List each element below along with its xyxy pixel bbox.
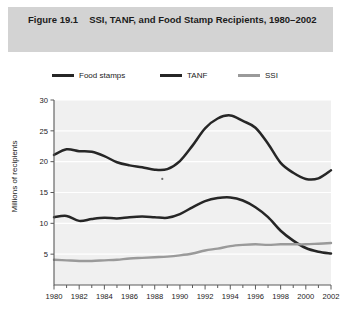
x-tick-label: 1994 (222, 292, 239, 301)
figure-number: Figure 19.1 (28, 13, 78, 27)
y-tick-label: 30 (40, 96, 48, 105)
y-tick-label: 15 (40, 188, 48, 197)
figure-container: Figure 19.1 SSI, TANF, and Food Stamp Re… (0, 0, 341, 323)
y-tick-label: 20 (40, 157, 48, 166)
x-tick-label: 1998 (272, 292, 289, 301)
legend-item-tanf: TANF (160, 68, 207, 82)
x-tick-label: 1982 (71, 292, 88, 301)
legend-item-ssi: SSI (238, 68, 278, 82)
stray-speck-mark (161, 178, 163, 180)
x-tick-label: 1984 (96, 292, 113, 301)
legend-label-food-stamps: Food stamps (79, 71, 125, 80)
figure-title-text: Figure 19.1 SSI, TANF, and Food Stamp Re… (28, 13, 325, 27)
legend-swatch-ssi (238, 74, 260, 77)
y-tick-label: 10 (40, 219, 48, 228)
x-tick-label: 1986 (121, 292, 138, 301)
x-tick-label: 1988 (146, 292, 163, 301)
chart-legend: Food stamps TANF SSI (52, 68, 282, 82)
legend-label-tanf: TANF (187, 71, 207, 80)
y-tick-label: 5 (44, 250, 48, 259)
x-axis-ticks: 1980198219841986198819901992199419961998… (46, 285, 340, 301)
legend-swatch-food-stamps (52, 74, 74, 77)
x-tick-label: 1996 (247, 292, 264, 301)
figure-title-band: Figure 19.1 SSI, TANF, and Food Stamp Re… (8, 7, 333, 52)
page-title: SSI, TANF, and Food Stamp Recipients, 19… (89, 13, 316, 27)
x-tick-label: 1992 (197, 292, 214, 301)
x-tick-label: 1980 (46, 292, 63, 301)
legend-label-ssi: SSI (265, 71, 278, 80)
x-tick-label: 2000 (297, 292, 314, 301)
legend-swatch-tanf (160, 74, 182, 77)
chart-area: Millions of recipients 51015202530 19801… (0, 88, 341, 313)
x-tick-label: 1990 (171, 292, 188, 301)
legend-item-food-stamps: Food stamps (52, 68, 125, 82)
y-axis-ticks: 51015202530 (40, 96, 54, 259)
x-tick-label: 2002 (323, 292, 340, 301)
line-chart-svg: 51015202530 1980198219841986198819901992… (0, 88, 341, 313)
y-tick-label: 25 (40, 127, 48, 136)
